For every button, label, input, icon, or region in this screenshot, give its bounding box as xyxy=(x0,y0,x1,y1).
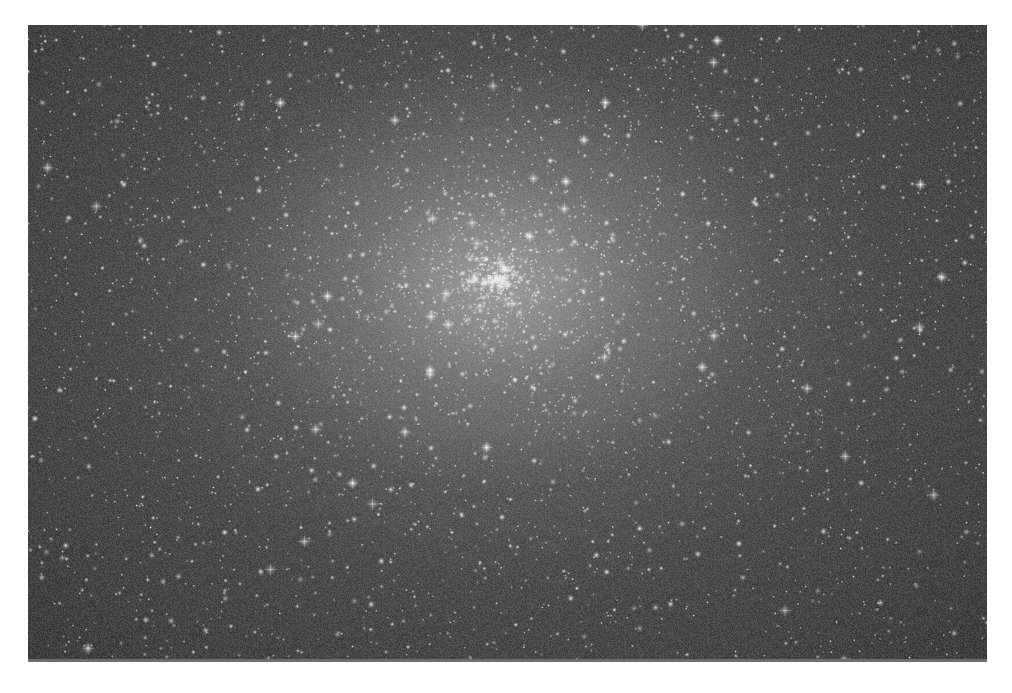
star-cluster-photo: Dense field of stars with a bright, conc… xyxy=(28,25,987,662)
page: Dense field of stars with a bright, conc… xyxy=(0,0,1012,693)
photo-bottom-edge xyxy=(28,659,987,662)
star-field-canvas xyxy=(28,25,987,662)
